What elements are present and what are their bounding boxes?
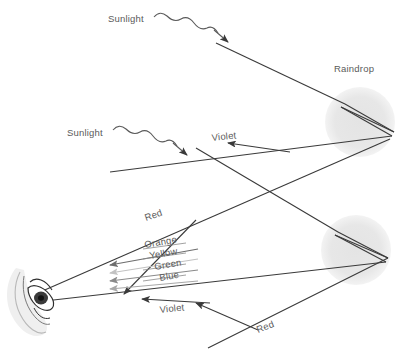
label-violet-lower: Violet <box>159 301 185 315</box>
label-sunlight-lower: Sunlight <box>67 127 103 138</box>
eye-pupil <box>38 295 44 301</box>
upper-violet-arrow <box>228 143 290 152</box>
label-red-upper: Red <box>143 207 164 223</box>
red-ray-lower-arrow <box>196 303 258 330</box>
rainbow-diagram: Sunlight Sunlight Raindrop Violet Violet… <box>0 0 398 350</box>
upper-raindrop <box>325 87 395 157</box>
label-sunlight-upper: Sunlight <box>108 13 144 24</box>
label-blue: Blue <box>158 269 179 283</box>
lower-incident-ray <box>196 148 338 232</box>
upper-incident-ray <box>216 43 345 104</box>
label-violet-upper: Violet <box>211 129 237 143</box>
diagram-canvas: Sunlight Sunlight Raindrop Violet Violet… <box>0 0 398 350</box>
lower-exit-ray-violet <box>36 262 386 302</box>
sunlight-wave-upper <box>154 13 228 42</box>
lower-exit-ray-red-down <box>208 258 388 348</box>
observer-eye <box>7 268 54 336</box>
label-red-lower: Red <box>255 318 276 335</box>
label-raindrop: Raindrop <box>334 63 374 74</box>
sunlight-wave-lower <box>113 126 187 155</box>
